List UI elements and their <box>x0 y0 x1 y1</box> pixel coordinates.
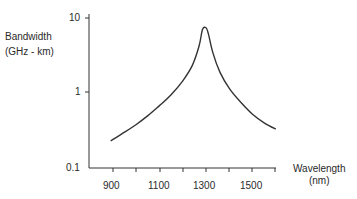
bandwidth-curve <box>111 27 276 141</box>
x-tick-marks <box>113 168 275 172</box>
axes <box>85 14 276 172</box>
plot-area <box>0 0 357 199</box>
